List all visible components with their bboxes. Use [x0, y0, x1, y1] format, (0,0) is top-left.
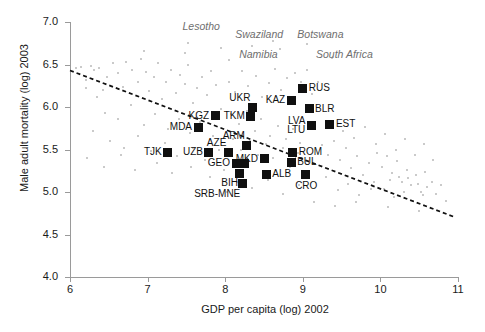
scatter-point — [396, 160, 398, 162]
scatter-point — [391, 172, 393, 174]
scatter-point — [384, 133, 386, 135]
country-marker[interactable] — [298, 84, 307, 93]
country-marker[interactable] — [325, 120, 334, 129]
scatter-point — [192, 102, 194, 104]
country-marker[interactable] — [194, 123, 203, 132]
scatter-point — [120, 154, 122, 156]
x-tick-mark — [148, 277, 149, 282]
country-marker[interactable] — [287, 158, 296, 167]
country-marker[interactable] — [287, 96, 296, 105]
country-marker[interactable] — [246, 112, 255, 121]
scatter-point — [362, 174, 364, 176]
x-tick-mark — [380, 277, 381, 282]
scatter-point — [280, 89, 282, 91]
country-marker[interactable] — [211, 111, 220, 120]
country-marker[interactable] — [262, 170, 271, 179]
scatter-point — [251, 45, 253, 47]
country-marker[interactable] — [238, 179, 247, 188]
scatter-point — [90, 65, 92, 67]
scatter-point — [220, 108, 222, 110]
x-axis-title: GDP per capita (log) 2002 — [100, 303, 430, 315]
country-label: AZE — [207, 138, 226, 148]
scatter-point — [334, 205, 336, 207]
scatter-point — [123, 147, 125, 149]
scatter-point — [353, 137, 355, 139]
scatter-point — [339, 159, 341, 161]
scatter-point — [383, 188, 385, 190]
scatter-point — [109, 140, 111, 142]
scatter-point — [345, 147, 347, 149]
scatter-point — [387, 206, 389, 208]
x-axis-line — [70, 277, 459, 278]
scatter-point — [404, 138, 406, 140]
country-marker[interactable] — [307, 121, 316, 130]
scatter-point — [254, 130, 256, 132]
scatter-point — [210, 70, 212, 72]
scatter-point — [435, 193, 437, 195]
scatter-point — [432, 159, 434, 161]
scatter-point — [422, 194, 424, 196]
scatter-point — [143, 50, 145, 52]
outlier-annotation: Swaziland — [235, 29, 283, 40]
scatter-point — [125, 61, 127, 63]
scatter-point — [426, 186, 428, 188]
scatter-point — [342, 130, 344, 132]
country-marker[interactable] — [163, 148, 172, 157]
country-marker[interactable] — [288, 148, 297, 157]
scatter-point — [368, 162, 370, 164]
scatter-point — [294, 72, 296, 74]
country-marker[interactable] — [204, 148, 213, 157]
country-marker[interactable] — [305, 104, 314, 113]
scatter-point — [137, 81, 139, 83]
country-marker[interactable] — [248, 103, 257, 112]
x-tick-mark — [70, 277, 71, 282]
x-tick-mark — [225, 277, 226, 282]
scatter-point — [445, 200, 447, 202]
scatter-point — [75, 67, 77, 69]
scatter-point — [215, 84, 217, 86]
scatter-point — [418, 210, 420, 212]
scatter-point — [122, 86, 124, 88]
scatter-point — [103, 166, 105, 168]
country-marker[interactable] — [242, 141, 251, 150]
x-tick-label: 7 — [133, 284, 163, 295]
scatter-point — [431, 181, 433, 183]
scatter-point — [286, 77, 288, 79]
country-marker[interactable] — [301, 170, 310, 179]
country-label: MKD — [236, 154, 258, 164]
scatter-point — [358, 194, 360, 196]
scatter-point — [137, 135, 139, 137]
scatter-point — [130, 104, 132, 106]
scatter-point — [223, 169, 225, 171]
scatter-point — [164, 142, 166, 144]
country-label: UKR — [229, 93, 250, 103]
country-label: BIH — [221, 178, 238, 188]
scatter-point — [161, 98, 163, 100]
scatter-point — [140, 58, 142, 60]
scatter-point — [143, 124, 145, 126]
scatter-point — [347, 183, 349, 185]
scatter-point — [306, 43, 308, 45]
x-tick-mark — [303, 277, 304, 282]
scatter-point — [420, 191, 422, 193]
scatter-point — [373, 181, 375, 183]
country-label: LTU — [287, 125, 305, 135]
x-tick-label: 8 — [210, 284, 240, 295]
scatter-point — [393, 196, 395, 198]
x-tick-label: 10 — [365, 284, 395, 295]
country-marker[interactable] — [224, 148, 233, 157]
scatter-point — [350, 167, 352, 169]
scatter-point — [398, 176, 400, 178]
scatter-point — [355, 201, 357, 203]
country-label: KAZ — [266, 95, 285, 105]
x-tick-label: 9 — [288, 284, 318, 295]
country-marker[interactable] — [260, 154, 269, 163]
scatter-point — [423, 143, 425, 145]
country-label: GEO — [208, 158, 230, 168]
scatter-point — [184, 83, 186, 85]
country-label: TJK — [144, 147, 162, 157]
scatter-point — [201, 76, 203, 78]
scatter-point — [440, 184, 442, 186]
scatter-point — [381, 166, 383, 168]
scatter-point — [170, 69, 172, 71]
